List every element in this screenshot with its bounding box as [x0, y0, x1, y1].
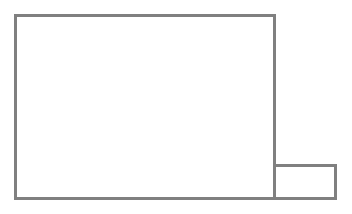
- large-rectangle: [14, 14, 276, 200]
- small-rectangle: [273, 164, 337, 200]
